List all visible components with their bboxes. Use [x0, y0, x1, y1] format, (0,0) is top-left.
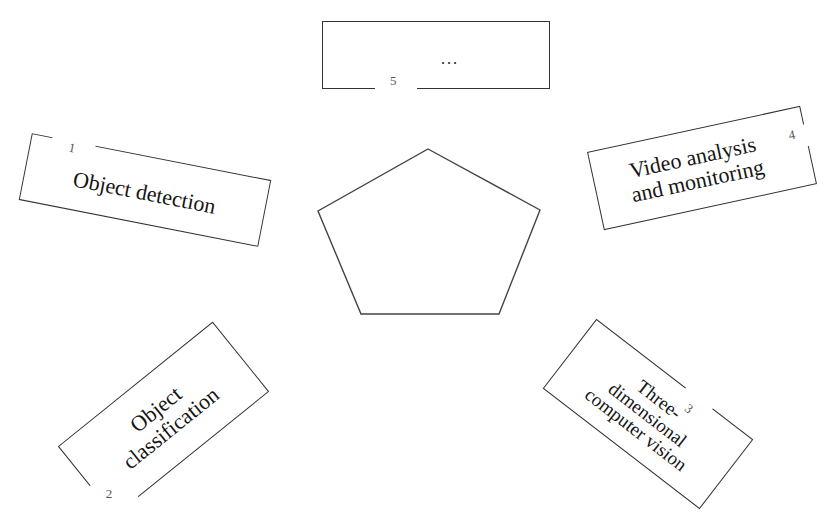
diagram-canvas: ... 5 Object detection 1 Video analysis … — [0, 0, 838, 525]
node-1-number: 1 — [67, 140, 76, 157]
node-4-label: Video analysis and monitoring — [624, 132, 766, 207]
node-5-box: ... 5 — [322, 21, 550, 89]
node-2-number: 2 — [106, 486, 112, 502]
node-1-label: Object detection — [71, 167, 218, 218]
node-5-label: ... — [441, 50, 459, 67]
node-5-number: 5 — [390, 73, 397, 89]
